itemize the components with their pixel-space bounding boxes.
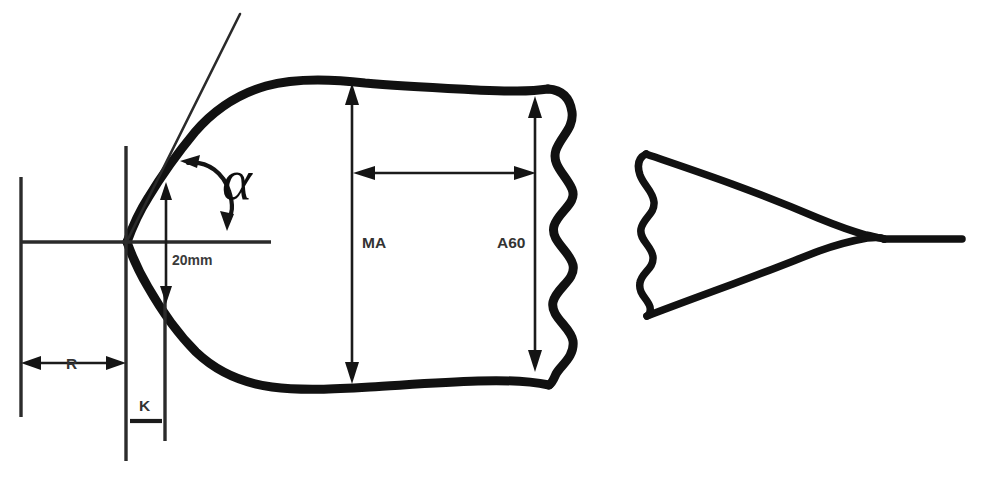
ma-to-a60-arrowhead-left — [353, 166, 375, 180]
right-teg-trace-group — [638, 154, 962, 316]
right-trace-wavy-edge — [638, 154, 654, 316]
ma-label: MA — [362, 234, 386, 251]
a60-arrowhead-top — [528, 96, 542, 118]
ma-arrowhead-bottom — [345, 362, 359, 384]
right-trace-upper-envelope — [646, 154, 884, 239]
r-arrowhead-right — [106, 356, 126, 370]
r-dimension-group: R — [21, 355, 126, 372]
right-trace-lower-envelope — [647, 237, 884, 316]
alpha-angle-group: α — [180, 148, 253, 231]
r-arrowhead-left — [21, 356, 41, 370]
left-trace-wavy-edge — [548, 89, 573, 385]
k-label: K — [139, 397, 151, 414]
left-teg-trace-group — [126, 14, 573, 389]
r-label: R — [66, 355, 77, 372]
teg-diagram: α 20mm MA A60 — [0, 0, 981, 491]
a60-arrowhead-bottom — [528, 350, 542, 372]
k-dimension-group: K — [130, 397, 162, 421]
ma-dimension-group: MA — [345, 83, 386, 384]
alpha-arc-arrowhead-lower — [220, 211, 234, 231]
twenty-mm-arrowhead-top — [160, 182, 172, 200]
ma-to-a60-arrowhead-right — [514, 166, 536, 180]
a60-label: A60 — [497, 234, 525, 251]
figure-canvas: α 20mm MA A60 — [0, 0, 981, 491]
ma-to-a60-span-group — [353, 166, 536, 180]
twenty-mm-label: 20mm — [172, 252, 212, 268]
a60-dimension-group: A60 — [497, 96, 542, 372]
alpha-label: α — [222, 148, 253, 211]
alpha-arc-arrowhead-upper — [180, 155, 200, 168]
